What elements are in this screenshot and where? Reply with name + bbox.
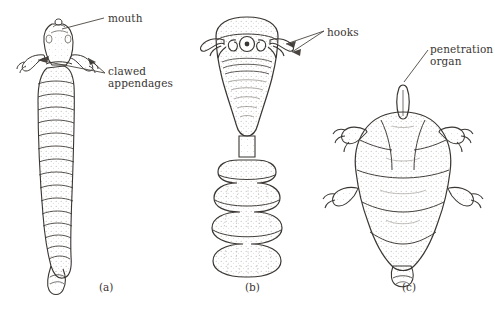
specimen-a-head [44,24,73,65]
specimen-b-trunk [212,160,282,277]
specimen-c-body [355,112,450,271]
label-hooks: hooks [327,27,359,39]
caption-panel-a: (a) [99,281,113,293]
label-penetration-organ: penetration organ [430,44,493,67]
specimen-a-mouth [55,19,62,25]
specimen-b-neck [239,136,255,157]
specimen-a-tail [48,266,66,295]
caption-panel-b: (b) [245,281,260,293]
specimen-c-leg-mid-right [448,187,483,208]
label-mouth: mouth [108,13,143,25]
specimen-c [323,85,483,287]
label-clawed-appendages: clawed appendages [108,66,173,89]
illustration-canvas [0,0,495,309]
specimen-a [17,19,98,295]
specimen-b [201,17,294,277]
caption-panel-c: (c) [402,281,416,293]
leader-hooks-upper [286,31,324,44]
specimen-a-appendage-right [70,55,98,73]
specimen-c-leg-mid-left [323,187,358,208]
specimen-a-appendage-left [17,55,45,73]
leader-hooks-lower [292,31,324,52]
specimen-b-head [216,17,278,136]
figure-illustration: mouth clawed appendages hooks penetratio… [0,0,495,309]
leader-penetration-organ [404,50,428,82]
